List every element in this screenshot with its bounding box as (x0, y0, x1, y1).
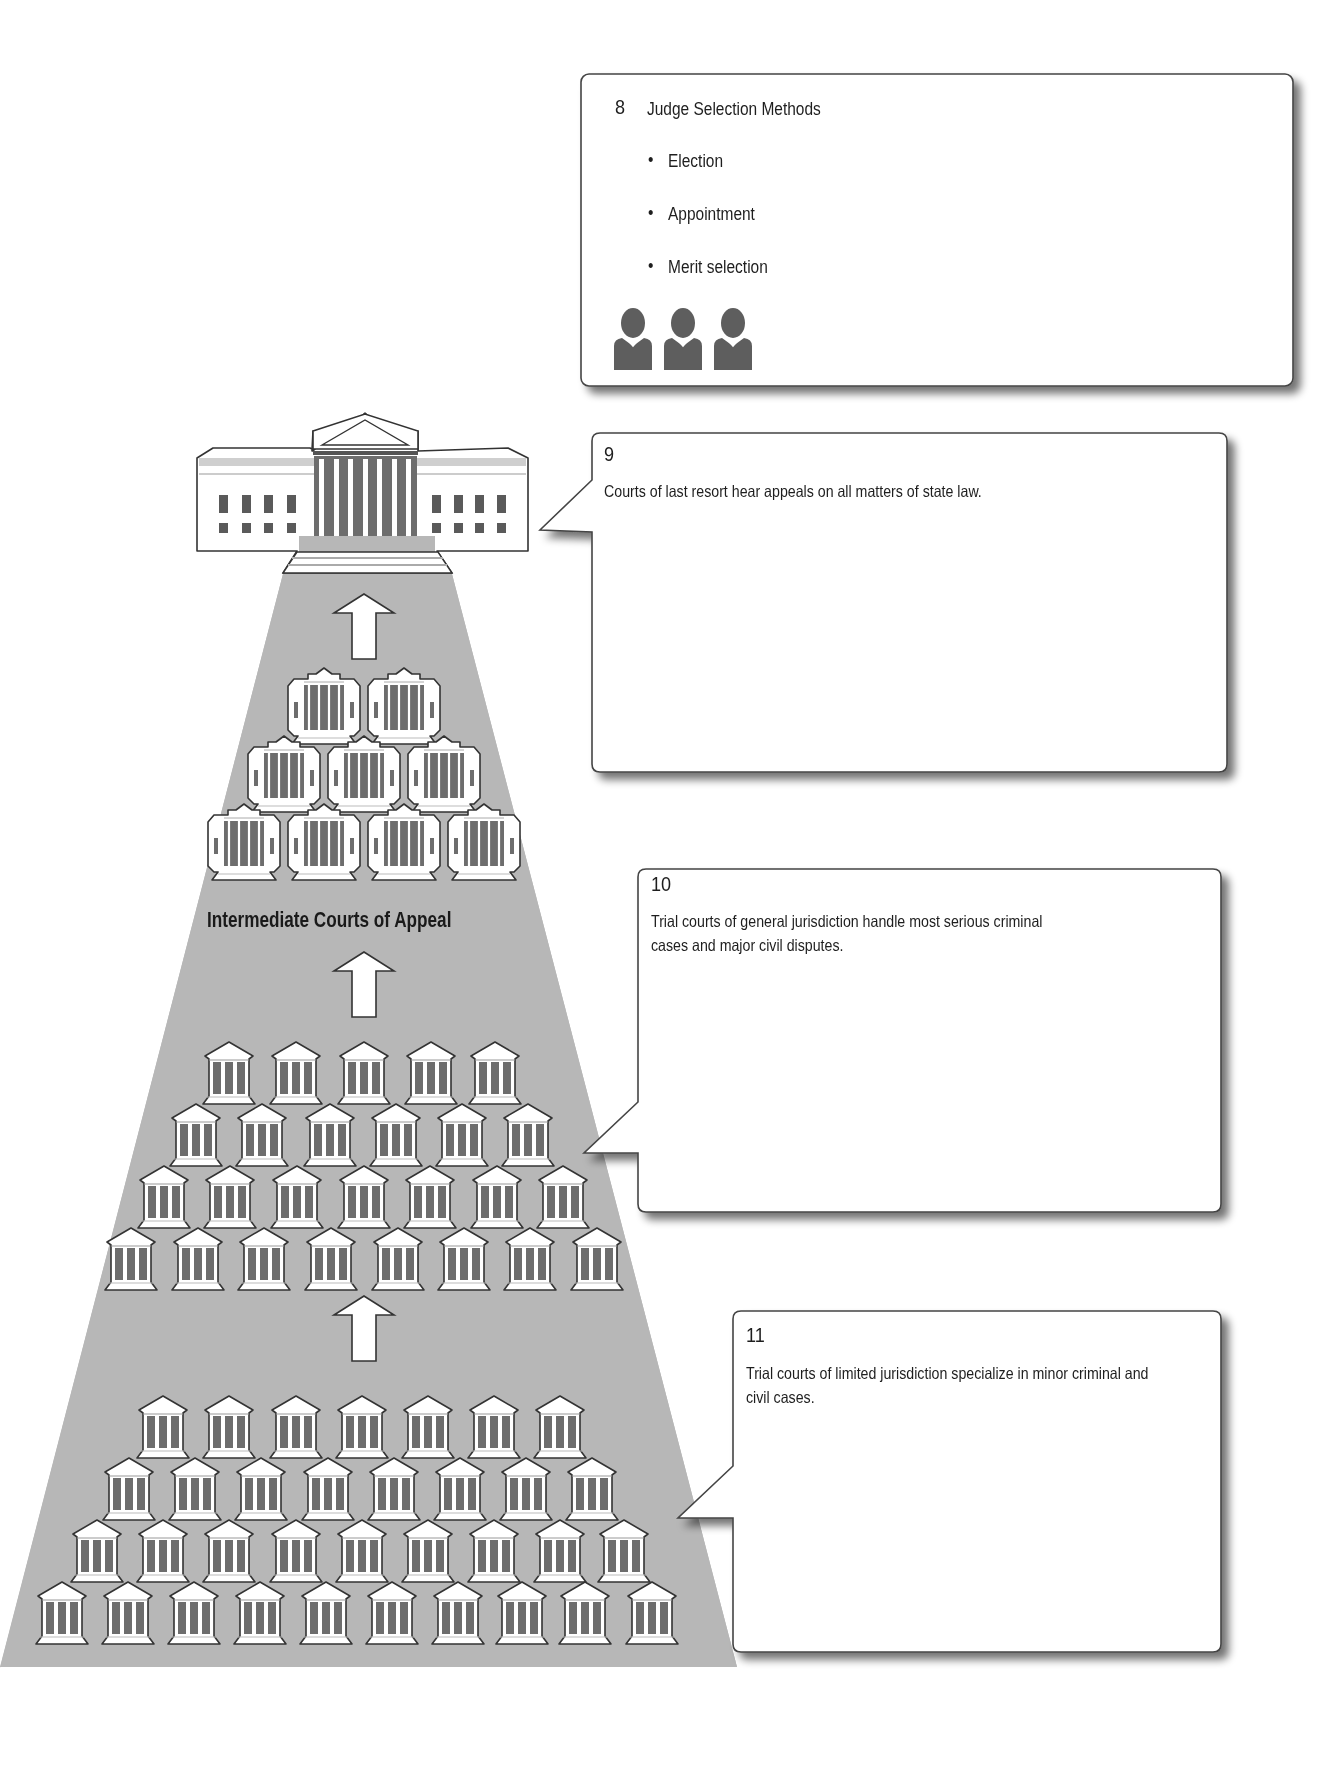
box-11-number: 11 (746, 1323, 765, 1347)
box-10-number: 10 (651, 872, 671, 896)
box-10-text: Trial courts of general jurisdiction han… (651, 909, 1081, 957)
box-8-item-election: Election (668, 151, 723, 172)
three-judges-icon (611, 308, 755, 370)
box-8-title: Judge Selection Methods (647, 99, 821, 120)
bullet-icon: • (648, 256, 653, 277)
box-8-item-merit-selection: Merit selection (668, 257, 768, 278)
court-system-diagram: Intermediate Courts of Appeal 8 Judge Se… (0, 0, 1339, 1781)
intermediate-courts-label: Intermediate Courts of Appeal (207, 907, 451, 933)
supreme-court-building-icon (197, 413, 528, 573)
judge-person-icon (711, 308, 755, 370)
bullet-icon: • (648, 150, 653, 171)
box-11-text: Trial courts of limited jurisdiction spe… (746, 1361, 1176, 1409)
box-8-item-appointment: Appointment (668, 204, 755, 225)
box-8-number: 8 (615, 95, 625, 119)
box-9-text: Courts of last resort hear appeals on al… (604, 479, 1034, 503)
bullet-icon: • (648, 203, 653, 224)
box-9-number: 9 (604, 442, 614, 466)
judge-person-icon (661, 308, 705, 370)
judge-person-icon (611, 308, 655, 370)
